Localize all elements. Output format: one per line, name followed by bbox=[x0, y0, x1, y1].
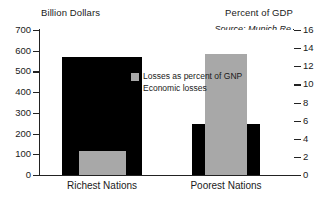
right-tick-mark bbox=[294, 157, 301, 158]
right-axis-title: Percent of GDP bbox=[225, 7, 293, 18]
bar-losses-percent-gnp bbox=[79, 151, 126, 175]
left-tick-mark bbox=[33, 113, 40, 114]
left-tick-mark bbox=[33, 92, 40, 93]
left-tick-label: 500 bbox=[15, 67, 31, 77]
left-tick-mark bbox=[33, 30, 40, 31]
legend-item: Economic losses bbox=[131, 84, 242, 94]
plot-area bbox=[40, 30, 294, 175]
right-tick-label: 10 bbox=[303, 80, 314, 90]
category-label-poorest: Poorest Nations bbox=[190, 180, 261, 191]
left-tick-mark bbox=[33, 175, 40, 176]
bar-group-richest bbox=[62, 30, 142, 175]
right-tick-label: 12 bbox=[303, 62, 314, 72]
category-label-richest: Richest Nations bbox=[67, 180, 137, 191]
legend-label: Losses as percent of GNP bbox=[143, 72, 242, 82]
left-axis-title: Billion Dollars bbox=[41, 7, 100, 18]
right-tick-label: 16 bbox=[303, 25, 314, 35]
right-tick-mark bbox=[294, 48, 301, 49]
left-tick-label: 300 bbox=[15, 108, 31, 118]
left-tick-mark bbox=[33, 154, 40, 155]
right-tick-mark bbox=[294, 139, 301, 140]
left-tick-mark bbox=[33, 134, 40, 135]
left-tick-label: 400 bbox=[15, 87, 31, 97]
right-tick-mark bbox=[294, 103, 301, 104]
left-tick-label: 0 bbox=[26, 170, 31, 180]
left-tick-label: 100 bbox=[15, 150, 31, 160]
chart-container: Billion Dollars Percent of GDP Source: M… bbox=[0, 0, 319, 212]
legend-item: Losses as percent of GNP bbox=[131, 72, 242, 82]
right-tick-label: 6 bbox=[303, 116, 308, 126]
right-tick-mark bbox=[294, 30, 301, 31]
right-tick-mark bbox=[294, 121, 301, 122]
right-tick-label: 14 bbox=[303, 43, 314, 53]
right-tick-mark bbox=[294, 175, 301, 176]
left-tick-mark bbox=[33, 51, 40, 52]
black-swatch-icon bbox=[131, 85, 139, 93]
left-tick-mark bbox=[33, 71, 40, 72]
left-tick-label: 700 bbox=[15, 25, 31, 35]
right-tick-label: 8 bbox=[303, 98, 308, 108]
left-tick-label: 200 bbox=[15, 129, 31, 139]
right-tick-label: 2 bbox=[303, 152, 308, 162]
right-tick-label: 0 bbox=[303, 170, 308, 180]
right-tick-mark bbox=[294, 66, 301, 67]
chart-legend: Losses as percent of GNPEconomic losses bbox=[131, 72, 242, 95]
gray-swatch-icon bbox=[131, 73, 139, 81]
right-tick-label: 4 bbox=[303, 134, 308, 144]
left-tick-label: 600 bbox=[15, 46, 31, 56]
bar-group-poorest bbox=[192, 30, 260, 175]
legend-label: Economic losses bbox=[143, 84, 207, 94]
right-tick-mark bbox=[294, 84, 301, 85]
